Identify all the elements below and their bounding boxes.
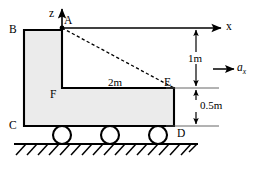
wheel [101,126,119,144]
diagram-svg [0,0,257,172]
dimension-label-05m: 0.5m [200,100,222,111]
point-label-A: A [64,15,72,27]
cart-body-fill [24,30,174,126]
point-label-B: B [9,24,17,36]
ground-hatching [16,144,197,155]
point-label-D: D [177,128,185,140]
figure-canvas: z x A B C D E F 1m 2m 0.5m ax [0,0,257,172]
point-label-F: F [50,89,56,101]
wheel [149,126,167,144]
axis-label-x: x [226,21,232,33]
point-label-C: C [9,120,17,132]
dimension-label-1m: 1m [188,53,202,64]
dimension-label-2m: 2m [108,77,122,88]
axis-label-z: z [49,8,54,20]
wheel [53,126,71,144]
point-label-E: E [164,77,171,89]
acceleration-label-ax: ax [237,62,246,76]
acceleration-subscript: x [243,67,246,76]
